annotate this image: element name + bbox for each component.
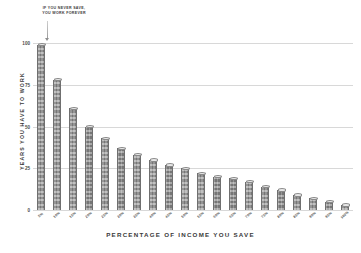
bar-slot <box>257 43 273 210</box>
x-axis-tick-label: 100% <box>340 210 350 219</box>
x-tick-slot: 5% <box>33 213 49 217</box>
x-axis-tick-label: 70% <box>245 211 253 219</box>
bar-cap <box>310 197 318 200</box>
bar-cap <box>214 175 222 178</box>
x-tick-slot: 10% <box>49 213 65 217</box>
x-axis-title: PERCENTAGE OF INCOME YOU SAVE <box>0 231 361 238</box>
x-axis-tick-label: 65% <box>229 211 237 219</box>
x-axis-tick-label: 45% <box>165 211 173 219</box>
x-tick-slot: 55% <box>193 213 209 217</box>
bar-slot <box>161 43 177 210</box>
bar-slot <box>209 43 225 210</box>
x-axis-tick-label: 85% <box>293 211 301 219</box>
x-axis-tick-label: 35% <box>133 211 141 219</box>
bar-cap <box>198 172 206 175</box>
x-tick-slot: 35% <box>129 213 145 217</box>
gridline <box>33 210 353 211</box>
bar <box>261 187 269 210</box>
y-axis-tick-label: 0 <box>0 208 30 213</box>
x-tick-slot: 70% <box>241 213 257 217</box>
bar <box>309 198 317 210</box>
x-axis-tick-label: 60% <box>213 211 221 219</box>
x-tick-slot: 80% <box>273 213 289 217</box>
bar-slot <box>337 43 353 210</box>
x-axis-tick-label: 30% <box>117 211 125 219</box>
x-tick-slot: 20% <box>81 213 97 217</box>
x-tick-slot: 45% <box>161 213 177 217</box>
x-axis-tick-label: 90% <box>309 211 317 219</box>
y-axis-tick-label: 25 <box>0 166 30 171</box>
bar-cap <box>182 167 190 170</box>
x-tick-slot: 30% <box>113 213 129 217</box>
bar <box>149 160 157 210</box>
x-axis-tick-label: 80% <box>277 211 285 219</box>
bar-series <box>33 43 353 210</box>
x-tick-slot: 95% <box>321 213 337 217</box>
bar-slot <box>129 43 145 210</box>
bar-cap <box>230 177 238 180</box>
bar <box>325 202 333 210</box>
x-tick-slot: 25% <box>97 213 113 217</box>
bar-slot <box>289 43 305 210</box>
x-tick-slot: 40% <box>145 213 161 217</box>
bar-cap <box>150 158 158 161</box>
bar-cap <box>246 180 254 183</box>
x-tick-slot: 65% <box>225 213 241 217</box>
y-axis-tick-label: 50 <box>0 124 30 129</box>
bar <box>181 168 189 210</box>
bar-slot <box>33 43 49 210</box>
x-axis-tick-label: 50% <box>181 211 189 219</box>
bar-slot <box>241 43 257 210</box>
bar-cap <box>70 107 78 110</box>
bar-cap <box>166 163 174 166</box>
bar-cap <box>102 137 110 140</box>
annotation-arrow-icon <box>47 21 48 39</box>
bar <box>293 195 301 210</box>
bar-slot <box>273 43 289 210</box>
x-axis-tick-label: 15% <box>69 211 77 219</box>
bar-cap <box>118 147 126 150</box>
bar <box>69 108 77 210</box>
x-axis-tick-label: 10% <box>53 211 61 219</box>
bar-slot <box>305 43 321 210</box>
bar <box>213 177 221 210</box>
x-axis-tick-label: 25% <box>101 211 109 219</box>
bar-cap <box>54 78 62 81</box>
bar <box>85 127 93 211</box>
x-tick-slot: 15% <box>65 213 81 217</box>
bar-slot <box>81 43 97 210</box>
bar-slot <box>177 43 193 210</box>
x-axis-tick-label: 55% <box>197 211 205 219</box>
bar-cap <box>342 203 350 206</box>
x-axis-tick-label: 20% <box>85 211 93 219</box>
y-axis-tick-labels: 0255075100 <box>0 43 30 213</box>
bar <box>245 182 253 210</box>
x-tick-slot: 50% <box>177 213 193 217</box>
bar <box>117 148 125 210</box>
y-axis-tick-label: 100 <box>0 41 30 46</box>
x-axis-tick-label: 75% <box>261 211 269 219</box>
bar-cap <box>38 43 46 46</box>
bar <box>277 190 285 210</box>
x-tick-slot: 100% <box>337 213 353 217</box>
bar <box>101 138 109 210</box>
x-tick-slot: 60% <box>209 213 225 217</box>
bar <box>197 173 205 210</box>
bar <box>165 165 173 210</box>
x-axis-tick-label: 95% <box>325 211 333 219</box>
bar <box>229 178 237 210</box>
bar-cap <box>294 193 302 196</box>
y-axis-tick-label: 75 <box>0 82 30 87</box>
savings-rate-bar-chart: IF YOU NEVER SAVE, YOU WORK FOREVER YEAR… <box>0 0 361 253</box>
bar-cap <box>86 125 94 128</box>
x-axis-tick-label: 40% <box>149 211 157 219</box>
x-axis-tick-label: 5% <box>38 212 45 219</box>
bar-slot <box>97 43 113 210</box>
x-tick-slot: 85% <box>289 213 305 217</box>
bar-cap <box>278 188 286 191</box>
bar-slot <box>113 43 129 210</box>
bar <box>53 80 61 210</box>
bar <box>133 155 141 210</box>
bar-slot <box>193 43 209 210</box>
bar-cap <box>326 200 334 203</box>
